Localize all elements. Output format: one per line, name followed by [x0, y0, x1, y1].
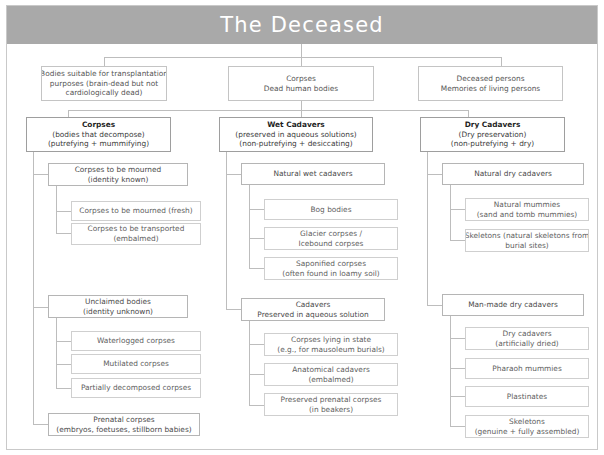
node-line: (non-putrefying + dry)	[451, 139, 534, 149]
node-line: Waterlogged corpses	[97, 336, 175, 346]
node-corpses-mourned-fresh[interactable]: Corpses to be mourned (fresh)	[71, 201, 201, 221]
node-bodies-for-transplantation[interactable]: Bodies suitable for transplantation purp…	[41, 66, 167, 101]
node-wet-cadavers-category[interactable]: Wet Cadavers (preserved in aqueous solut…	[219, 117, 373, 152]
node-line: Anatomical cadavers	[292, 365, 370, 375]
node-deceased-persons[interactable]: Deceased persons Memories of living pers…	[418, 66, 563, 101]
node-line: Natural mummies	[494, 200, 560, 210]
node-corpses-category[interactable]: Corpses (bodies that decompose) (putrefy…	[26, 117, 171, 152]
connector-row1-drop-mid	[301, 57, 302, 66]
node-line: Mutilated corpses	[103, 359, 169, 369]
connector-mid-spine	[226, 152, 227, 309]
node-line: (embalmed)	[308, 375, 353, 385]
connector-aq-to-preserved-prenatal	[249, 405, 264, 406]
node-pharaoh-mummies[interactable]: Pharaoh mummies	[465, 358, 589, 379]
connector-manmade-to-plastinates	[450, 396, 465, 397]
node-line: (bodies that decompose)	[52, 130, 144, 140]
node-line: Skeletons (natural skeletons from	[465, 231, 589, 241]
connector-mourned-to-fresh	[56, 211, 71, 212]
node-line: Saponified corpses	[296, 259, 366, 269]
connector-right-to-natural-dry	[427, 174, 442, 175]
node-corpses-to-be-transported[interactable]: Corpses to be transported (embalmed)	[71, 223, 201, 245]
node-natural-dry-cadavers[interactable]: Natural dry cadavers	[442, 163, 584, 185]
node-line: burial sites)	[505, 241, 548, 251]
node-dry-cadavers-category[interactable]: Dry Cadavers (Dry preservation) (non-put…	[420, 117, 565, 152]
connector-natdry-to-skeletons	[450, 240, 465, 241]
node-line: Prenatal corpses	[93, 415, 154, 425]
connector-right-to-manmade-dry	[427, 305, 442, 306]
node-line: Icebound corpses	[299, 239, 364, 249]
connector-row2-drop-right	[468, 110, 469, 117]
node-line: (genuine + fully assembled)	[475, 427, 580, 437]
node-corpses-dead-human-bodies[interactable]: Corpses Dead human bodies	[228, 66, 374, 101]
node-partially-decomposed-corpses[interactable]: Partially decomposed corpses	[71, 378, 201, 398]
node-line: Dead human bodies	[264, 84, 338, 94]
node-line: Bodies suitable for transplantation	[41, 69, 167, 79]
node-plastinates[interactable]: Plastinates	[465, 386, 589, 407]
node-glacier-icebound-corpses[interactable]: Glacier corpses / Icebound corpses	[264, 227, 398, 250]
node-saponified-corpses[interactable]: Saponified corpses (often found in loamy…	[264, 257, 398, 280]
node-line: Corpses	[286, 74, 316, 84]
node-corpses-to-be-mourned[interactable]: Corpses to be mourned (identity known)	[48, 163, 188, 186]
node-line: Unclaimed bodies	[85, 297, 151, 307]
node-line: Bog bodies	[311, 205, 352, 215]
node-natural-wet-cadavers[interactable]: Natural wet cadavers	[241, 163, 385, 185]
node-line: Plastinates	[507, 392, 547, 402]
node-man-made-dry-cadavers[interactable]: Man-made dry cadavers	[442, 294, 584, 316]
diagram-header: The Deceased	[7, 6, 597, 44]
connector-natwet-to-saponified	[249, 268, 264, 269]
node-line: (often found in loamy soil)	[282, 269, 379, 279]
connector-row2-bus	[68, 110, 468, 111]
connector-aq-to-anatomical	[249, 374, 264, 375]
deceased-taxonomy-diagram: The Deceased Bodies suitable for transpl…	[0, 0, 604, 455]
connector-unclaimed-to-mutilated	[56, 364, 71, 365]
connector-cad-aqueous-spine	[249, 321, 250, 405]
node-line: Corpses to be mourned	[75, 165, 162, 175]
node-line: Preserved prenatal corpses	[281, 395, 382, 405]
node-anatomical-cadavers[interactable]: Anatomical cadavers (embalmed)	[264, 363, 398, 386]
node-line: Corpses lying in state	[291, 335, 371, 345]
node-natural-mummies[interactable]: Natural mummies (sand and tomb mummies)	[465, 198, 589, 221]
connector-aq-to-lying-state	[249, 344, 264, 345]
connector-mid-to-natural-wet	[226, 174, 241, 175]
node-prenatal-corpses[interactable]: Prenatal corpses (embryos, foetuses, sti…	[48, 413, 200, 436]
connector-unclaimed-spine	[56, 318, 57, 388]
connector-natdry-to-mummies	[450, 209, 465, 210]
node-skeletons-natural[interactable]: Skeletons (natural skeletons from burial…	[465, 229, 589, 252]
node-waterlogged-corpses[interactable]: Waterlogged corpses	[71, 331, 201, 351]
node-line: Preserved in aqueous solution	[257, 310, 368, 320]
node-preserved-prenatal-corpses[interactable]: Preserved prenatal corpses (in beakers)	[264, 393, 398, 416]
node-line: (embalmed)	[113, 234, 158, 244]
connector-natwet-to-glacier	[249, 238, 264, 239]
node-line: (embryos, foetuses, stillborn babies)	[56, 425, 191, 435]
node-corpses-lying-in-state[interactable]: Corpses lying in state (e.g., for mausol…	[264, 333, 398, 356]
node-line: Memories of living persons	[441, 84, 540, 94]
node-unclaimed-bodies[interactable]: Unclaimed bodies (identity unknown)	[48, 295, 188, 318]
node-line: Dry Cadavers	[465, 120, 521, 130]
connector-manmade-to-pharaoh	[450, 368, 465, 369]
node-line: (preserved in aqueous solutions)	[235, 130, 356, 140]
connector-row2-drop-left	[68, 110, 69, 117]
node-line: (identity unknown)	[83, 307, 153, 317]
connector-row2-drop-mid	[301, 110, 302, 117]
node-bog-bodies[interactable]: Bog bodies	[264, 199, 398, 220]
node-line: (sand and tomb mummies)	[477, 210, 578, 220]
node-line: Glacier corpses /	[300, 229, 362, 239]
connector-row1-bus	[104, 57, 501, 58]
node-skeletons-genuine[interactable]: Skeletons (genuine + fully assembled)	[465, 415, 589, 438]
connector-manmade-spine	[450, 316, 451, 426]
connector-mid-to-cadavers-aqueous	[226, 309, 241, 310]
connector-left-spine	[33, 152, 34, 424]
connector-row1-drop-left	[104, 57, 105, 66]
node-line: Man-made dry cadavers	[468, 300, 558, 310]
node-mutilated-corpses[interactable]: Mutilated corpses	[71, 354, 201, 374]
node-line: (non-putrefying + desiccating)	[239, 139, 352, 149]
node-dry-cadavers-artificially-dried[interactable]: Dry cadavers (artificially dried)	[465, 327, 589, 350]
node-line: Deceased persons	[457, 74, 525, 84]
connector-manmade-to-skeletons-genuine	[450, 426, 465, 427]
node-line: Pharaoh mummies	[492, 364, 562, 374]
node-line: Natural wet cadavers	[273, 169, 352, 179]
node-line: Cadavers	[296, 300, 331, 310]
connector-natwet-to-bog	[249, 209, 264, 210]
node-cadavers-preserved-aqueous[interactable]: Cadavers Preserved in aqueous solution	[241, 298, 385, 321]
node-line: Corpses to be mourned (fresh)	[79, 206, 192, 216]
